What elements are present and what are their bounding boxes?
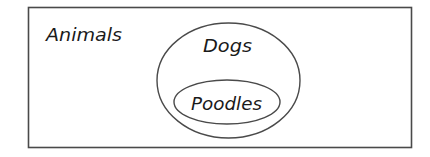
animals-label: Animals <box>45 24 122 45</box>
dogs-label: Dogs <box>203 35 252 56</box>
poodles-label: Poodles <box>191 93 262 114</box>
euler-diagram: Animals Dogs Poodles <box>0 0 430 157</box>
